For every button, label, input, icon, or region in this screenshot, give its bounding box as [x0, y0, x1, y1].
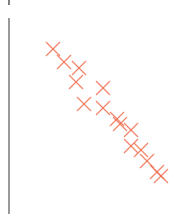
x-marker: [96, 101, 110, 115]
x-marker: [69, 75, 83, 89]
x-marker: [154, 169, 168, 183]
x-marker: [96, 81, 110, 95]
x-marker: [124, 139, 138, 153]
scatter-chart: [0, 0, 186, 214]
x-marker: [72, 61, 86, 75]
x-marker: [46, 42, 60, 56]
x-marker: [77, 97, 91, 111]
data-markers: [46, 42, 168, 183]
x-marker: [57, 55, 71, 69]
x-marker: [110, 112, 124, 126]
